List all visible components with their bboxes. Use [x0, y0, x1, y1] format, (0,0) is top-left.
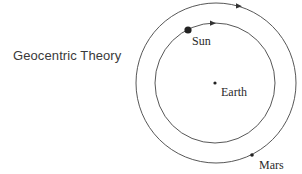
- mars-label: Mars: [259, 158, 284, 172]
- geocentric-diagram: Sun Earth Mars: [0, 0, 302, 174]
- outer-orbit-arrow-icon: [236, 3, 242, 8]
- earth-dot: [213, 81, 216, 84]
- earth-label: Earth: [221, 85, 247, 99]
- inner-orbit-arrow-icon: [210, 21, 216, 26]
- sun-label: Sun: [192, 34, 211, 48]
- sun-dot: [184, 26, 191, 33]
- mars-dot: [250, 153, 254, 157]
